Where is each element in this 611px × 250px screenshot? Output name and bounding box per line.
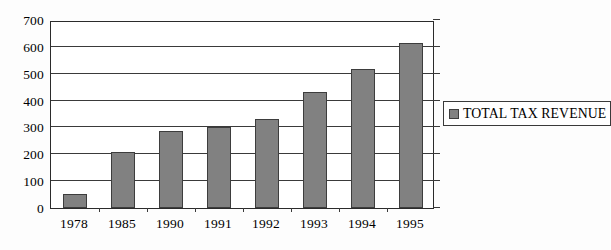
y-tick-label-200: 200	[0, 148, 44, 162]
bar-1985[interactable]	[111, 152, 136, 208]
x-tick-label-1995: 1995	[386, 216, 434, 232]
x-tick-label-1978: 1978	[50, 216, 98, 232]
x-tick-label-1991: 1991	[194, 216, 242, 232]
x-tick-6	[339, 208, 340, 212]
x-tick-1	[99, 208, 100, 212]
y-tick-label-700: 700	[0, 14, 44, 28]
gridline-600	[51, 46, 433, 47]
x-tick-7	[387, 208, 388, 212]
right-tick-600	[433, 46, 440, 47]
bar-1978[interactable]	[63, 194, 88, 208]
legend-label: TOTAL TAX REVENUE	[463, 106, 606, 121]
chart-legend[interactable]: TOTAL TAX REVENUE	[443, 101, 611, 126]
bar-1990[interactable]	[159, 131, 184, 208]
gridline-200	[51, 153, 433, 154]
x-tick-label-1992: 1992	[242, 216, 290, 232]
x-tick-label-1985: 1985	[98, 216, 146, 232]
y-tick-label-500: 500	[0, 68, 44, 82]
y-tick-label-400: 400	[0, 95, 44, 109]
bar-1995[interactable]	[399, 43, 424, 208]
y-tick-label-100: 100	[0, 175, 44, 189]
right-tick-0	[433, 207, 440, 208]
x-tick-5	[291, 208, 292, 212]
right-tick-400	[433, 100, 440, 101]
right-tick-500	[433, 73, 440, 74]
gridline-300	[51, 126, 433, 127]
y-tick-label-0: 0	[0, 202, 44, 216]
right-tick-300	[433, 126, 440, 127]
plot-area	[50, 21, 434, 209]
x-tick-label-1990: 1990	[146, 216, 194, 232]
bar-1991[interactable]	[207, 127, 232, 208]
gridline-400	[51, 100, 433, 101]
legend-color-swatch	[449, 109, 459, 119]
x-tick-3	[195, 208, 196, 212]
gridline-500	[51, 73, 433, 74]
x-tick-4	[243, 208, 244, 212]
y-tick-label-600: 600	[0, 41, 44, 55]
x-axis: 19781985199019911992199319941995	[50, 216, 434, 236]
gridline-100	[51, 180, 433, 181]
right-tick-700	[433, 19, 440, 20]
bar-1994[interactable]	[351, 69, 376, 208]
bar-1993[interactable]	[303, 92, 328, 208]
x-tick-label-1993: 1993	[290, 216, 338, 232]
right-tick-200	[433, 153, 440, 154]
bar-1992[interactable]	[255, 119, 280, 208]
right-tick-100	[433, 180, 440, 181]
y-tick-label-300: 300	[0, 121, 44, 135]
x-tick-label-1994: 1994	[338, 216, 386, 232]
x-tick-2	[147, 208, 148, 212]
